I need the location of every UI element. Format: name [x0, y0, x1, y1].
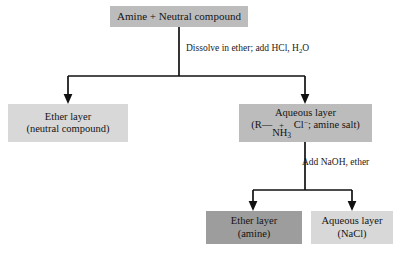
node-ether-layer-line1: Ether layer [45, 111, 91, 123]
flowchart-canvas: Amine + Neutral compound Dissolve in eth… [0, 0, 400, 253]
node-aqueous-layer-amine-salt: Aqueous layer (R—+NH3 Cl−; amine salt) [239, 104, 372, 142]
node-amine-neutral-compound: Amine + Neutral compound [110, 6, 248, 27]
annotation-dissolve-in-ether: Dissolve in ether; add HCl, H2O [186, 42, 309, 55]
formula-tail: ; amine salt) [308, 119, 360, 130]
arrowhead-ether [64, 94, 73, 104]
node-ether-layer-line2: (neutral compound) [26, 123, 109, 135]
node-aqueous-nacl-line2: (NaCl) [337, 228, 366, 240]
node-ether-amine-line1: Ether layer [231, 215, 277, 227]
formula-nh: NH [272, 127, 287, 138]
node-ether-layer-neutral: Ether layer (neutral compound) [8, 104, 128, 142]
annotation-add-naoh-ether: Add NaOH, ether [302, 156, 369, 169]
annotation-dissolve-line2: add HCl, H2O [255, 43, 309, 53]
node-aqueous-layer-nacl: Aqueous layer (NaCl) [311, 211, 393, 244]
annotation-dissolve-line1: Dissolve in ether; [186, 43, 253, 53]
node-start-label: Amine + Neutral compound [117, 10, 241, 23]
annotation-naoh-line1: Add NaOH, ether [302, 157, 369, 167]
formula-nh3: NH3 [272, 128, 291, 139]
node-ether-layer-amine: Ether layer (amine) [206, 211, 302, 244]
annotation-dissolve-line2-post: O [302, 43, 309, 53]
arrowhead-aqueous [301, 94, 310, 104]
node-aqueous-nacl-line1: Aqueous layer [322, 215, 383, 227]
annotation-dissolve-line2-pre: add HCl, H [255, 43, 299, 53]
formula-dash: — [262, 119, 273, 130]
formula-chloride: Cl [294, 119, 304, 130]
node-aqueous-layer-formula: (R—+NH3 Cl−; amine salt) [251, 119, 360, 139]
arrowhead-aqueous-nacl [348, 201, 357, 211]
formula-ammonium-group: +NH3 [272, 123, 291, 139]
arrowhead-ether-amine [249, 201, 258, 211]
formula-open: (R [251, 119, 262, 130]
node-ether-amine-line2: (amine) [238, 228, 271, 240]
formula-nh-subscript: 3 [287, 131, 291, 140]
